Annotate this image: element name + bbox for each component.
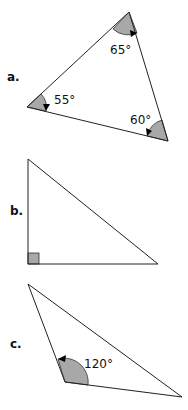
triangle-c: c. 120° <box>10 284 182 397</box>
angle-label-top: 65° <box>110 43 131 57</box>
label-b: b. <box>10 204 23 218</box>
triangle-a: a. 65° 55° 60° <box>7 12 168 141</box>
triangle-b: b. <box>10 159 158 264</box>
angle-label-left: 55° <box>54 93 75 107</box>
triangle-c-outline <box>28 284 182 397</box>
angle-wedge-left <box>27 94 46 111</box>
label-c: c. <box>10 337 22 351</box>
label-a: a. <box>7 70 20 84</box>
angle-label-bottom: 120° <box>84 357 113 371</box>
triangle-diagram: a. 65° 55° 60° b. c. 120° <box>0 0 188 410</box>
right-angle-marker <box>28 253 39 264</box>
triangle-b-outline <box>28 159 158 264</box>
angle-label-right: 60° <box>130 113 151 127</box>
